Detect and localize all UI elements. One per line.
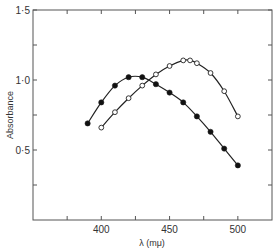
open-circles-point (194, 61, 199, 66)
filled-circles-point (85, 121, 90, 126)
y-tick-label: 0·5 (16, 145, 31, 156)
open-circles-point (126, 96, 131, 101)
filled-circles-point (222, 146, 227, 151)
open-circles-point (235, 114, 240, 119)
filled-circles-point (181, 100, 186, 105)
filled-circles-point (126, 75, 131, 80)
y-tick-label: 1·5 (16, 5, 31, 16)
x-tick-label: 500 (230, 224, 247, 235)
absorbance-chart: 4004505000·51·01·5 λ (mμ) Absorbance (0, 0, 276, 252)
open-circles-point (188, 58, 193, 63)
open-circles-point (99, 125, 104, 130)
open-circles-point (181, 58, 186, 63)
filled-circles-point (208, 129, 213, 134)
open-circles-point (208, 71, 213, 76)
filled-circles-point (167, 90, 172, 95)
filled-circles-point (140, 75, 145, 80)
x-tick-label: 450 (161, 224, 178, 235)
open-circles-point (167, 64, 172, 69)
y-tick-label: 1·0 (16, 75, 31, 86)
filled-circles-point (235, 163, 240, 168)
series-points (85, 58, 240, 168)
filled-circles-curve (88, 76, 238, 165)
open-circles-point (140, 83, 145, 88)
series-curves (88, 60, 238, 166)
filled-circles-point (194, 114, 199, 119)
filled-circles-point (153, 82, 158, 87)
filled-circles-point (112, 83, 117, 88)
filled-circles-point (99, 100, 104, 105)
tick-label-group: 4004505000·51·01·5 (16, 5, 247, 236)
open-circles-point (222, 89, 227, 94)
x-tick-label: 400 (93, 224, 110, 235)
open-circles-point (113, 110, 118, 115)
x-axis-label: λ (mμ) (139, 238, 165, 248)
open-circles-point (154, 72, 159, 77)
y-axis-label: Absorbance (5, 91, 15, 139)
